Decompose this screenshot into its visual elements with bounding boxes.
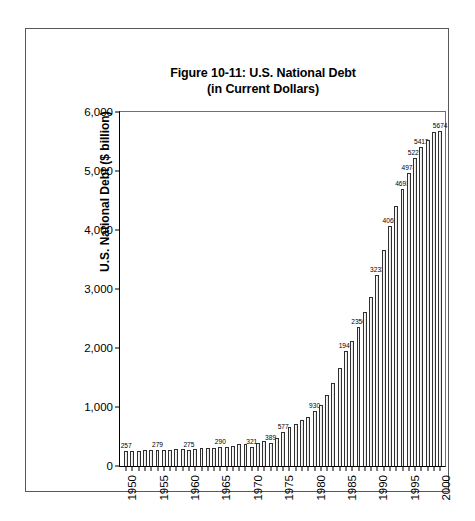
x-tick-mark [327, 466, 328, 471]
x-tick-label: 1990 [377, 475, 389, 501]
x-tick-mark [295, 466, 296, 471]
bar [438, 131, 442, 466]
x-tick-mark [220, 466, 221, 471]
bar [426, 140, 430, 466]
bar [300, 420, 304, 466]
bar [275, 438, 279, 466]
x-tick-mark [289, 466, 290, 471]
bar [269, 443, 273, 466]
bar [388, 226, 392, 466]
x-tick-label: 1970 [252, 475, 264, 501]
bar [262, 441, 266, 466]
bar [382, 250, 386, 466]
x-tick-mark [239, 466, 240, 471]
x-tick-mark [408, 466, 409, 471]
bar [225, 447, 229, 466]
x-tick-mark [132, 466, 133, 471]
x-tick-mark [232, 466, 233, 471]
x-tick-mark [402, 466, 403, 471]
x-tick-mark [251, 466, 252, 471]
x-tick-mark [371, 466, 372, 471]
x-tick-mark [245, 466, 246, 471]
bar [181, 449, 185, 466]
x-tick-mark [258, 466, 259, 471]
bar-value-label: 5674 [433, 122, 448, 129]
x-tick-mark [182, 466, 183, 471]
bar [394, 206, 398, 466]
bar [375, 275, 379, 466]
x-tick-mark [302, 466, 303, 471]
x-tick-mark [364, 466, 365, 471]
x-tick-mark [389, 466, 390, 471]
y-tick-label: 1,000 [84, 401, 113, 413]
y-tick-label: 2,000 [84, 342, 113, 354]
bar [162, 450, 166, 466]
bar-slot: 56742000 [437, 112, 443, 466]
plot-area: U.S. National Debt ($ billion) 01,0002,0… [119, 111, 446, 467]
x-tick-mark [352, 466, 353, 471]
x-tick-mark [333, 466, 334, 471]
y-tick-label: 0 [107, 460, 113, 472]
x-tick-mark [144, 466, 145, 471]
bar [231, 446, 235, 466]
x-tick-mark [157, 466, 158, 471]
x-tick-mark [433, 466, 434, 471]
x-tick-mark [201, 466, 202, 471]
chart-title-line-1: Figure 10-11: U.S. National Debt [51, 65, 475, 81]
x-tick-mark [195, 466, 196, 471]
x-tick-label: 1965 [220, 475, 232, 501]
bar [344, 351, 348, 466]
bar [319, 405, 323, 466]
x-tick-mark [264, 466, 265, 471]
x-tick-label: 1960 [189, 475, 201, 501]
bar [237, 444, 241, 466]
chart-title-line-2: (in Current Dollars) [51, 81, 475, 97]
bar [338, 368, 342, 466]
bar [407, 173, 411, 466]
bar [218, 447, 222, 466]
bar [193, 449, 197, 466]
x-tick-mark [339, 466, 340, 471]
x-tick-mark [345, 466, 346, 471]
x-tick-mark [440, 466, 441, 471]
bar [306, 417, 310, 466]
x-tick-mark [415, 466, 416, 471]
x-tick-mark [383, 466, 384, 471]
bar [313, 411, 317, 466]
x-tick-label: 1975 [283, 475, 295, 501]
x-tick-mark [151, 466, 152, 471]
bar [168, 450, 172, 466]
bar [363, 312, 367, 466]
x-tick-mark [358, 466, 359, 471]
bar-series: 2571950279195527519602901965321197038957… [120, 112, 445, 466]
bar [137, 451, 141, 466]
x-tick-mark [226, 466, 227, 471]
bar [294, 424, 298, 466]
y-tick-label: 3,000 [84, 283, 113, 295]
figure-border: Figure 10-11: U.S. National Debt (in Cur… [25, 28, 449, 492]
x-tick-label: 1955 [158, 475, 170, 501]
x-tick-mark [421, 466, 422, 471]
x-tick-mark [270, 466, 271, 471]
bar [156, 450, 160, 466]
x-tick-label: 1995 [409, 475, 421, 501]
x-tick-mark [126, 466, 127, 471]
bar [401, 189, 405, 466]
bar [212, 448, 216, 466]
x-tick-label: 1985 [346, 475, 358, 501]
x-tick-mark [207, 466, 208, 471]
x-tick-mark [427, 466, 428, 471]
x-tick-mark [276, 466, 277, 471]
x-tick-mark [377, 466, 378, 471]
bar [130, 451, 134, 466]
x-tick-mark [214, 466, 215, 471]
y-tick-label: 6,000 [84, 106, 113, 118]
bar [288, 427, 292, 466]
bar [124, 451, 128, 466]
x-tick-label: 1950 [126, 475, 138, 501]
x-tick-mark [320, 466, 321, 471]
bar [369, 297, 373, 466]
x-tick-mark [396, 466, 397, 471]
x-tick-mark [163, 466, 164, 471]
x-tick-mark [138, 466, 139, 471]
